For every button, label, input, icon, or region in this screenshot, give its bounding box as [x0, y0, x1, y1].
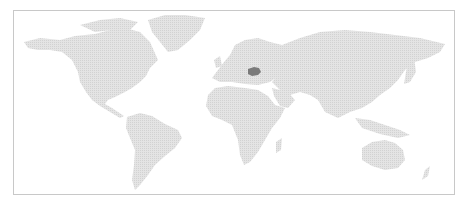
greenland[interactable]	[148, 15, 205, 52]
south-america[interactable]	[126, 113, 182, 190]
asia[interactable]	[272, 30, 445, 118]
australia[interactable]	[362, 140, 405, 170]
africa[interactable]	[206, 86, 285, 165]
world-map[interactable]	[0, 0, 465, 205]
north-america[interactable]	[24, 28, 158, 118]
